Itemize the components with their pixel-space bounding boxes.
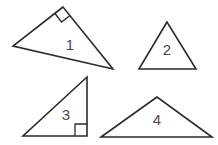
triangle-2: 2 (139, 22, 196, 69)
triangle-3: 3 (23, 77, 87, 136)
triangle-4-label: 4 (153, 111, 161, 128)
triangle-4: 4 (101, 97, 212, 137)
right-angle-marker (75, 124, 87, 136)
triangles-diagram: 1 2 3 4 (0, 0, 218, 145)
right-angle-marker (55, 14, 70, 23)
triangle-2-label: 2 (163, 41, 171, 58)
triangle-1: 1 (13, 7, 113, 69)
triangle-3-label: 3 (62, 106, 70, 123)
triangle-1-label: 1 (66, 36, 74, 53)
